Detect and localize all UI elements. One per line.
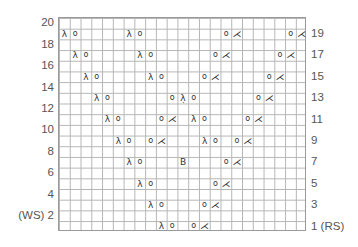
yo-icon: o (156, 200, 167, 211)
yo-icon: o (91, 72, 102, 83)
k2tog-icon: ⋌ (285, 50, 296, 61)
yo-icon: o (188, 93, 199, 104)
yo-icon: o (145, 179, 156, 190)
yo-icon: o (145, 50, 156, 61)
row-label-4: 4 (48, 188, 54, 200)
row-label-12: 12 (41, 102, 54, 114)
k2tog-icon: ⋌ (221, 179, 232, 190)
yo-icon: o (102, 93, 113, 104)
k2tog-icon: ⋌ (167, 114, 178, 125)
row-label-1: 1 (RS) (311, 220, 344, 232)
ssk-icon: λ (145, 72, 156, 83)
yo-icon: o (264, 72, 275, 83)
k2tog-icon: ⋌ (253, 114, 264, 125)
ssk-icon: λ (113, 136, 124, 147)
row-label-6: 6 (48, 166, 54, 178)
row-label-2: (WS) 2 (18, 209, 54, 221)
row-label-9: 9 (311, 134, 317, 146)
ssk-icon: λ (91, 93, 102, 104)
row-label-8: 8 (48, 145, 54, 157)
row-label-7: 7 (311, 155, 317, 167)
k2tog-icon: ⋌ (156, 136, 167, 147)
ssk-icon: λ (124, 157, 135, 168)
yo-icon: o (156, 114, 167, 125)
row-label-13: 13 (311, 91, 324, 103)
yo-icon: o (188, 221, 199, 232)
yo-icon: o (113, 114, 124, 125)
yo-icon: o (167, 221, 178, 232)
ssk-icon: λ (188, 114, 199, 125)
row-label-11: 11 (311, 113, 323, 125)
k2tog-icon: ⋌ (232, 157, 243, 168)
yo-icon: o (145, 136, 156, 147)
k2tog-icon: ⋌ (296, 29, 307, 40)
k2tog-icon: ⋌ (275, 72, 286, 83)
yo-icon: o (242, 114, 253, 125)
ssk-icon: λ (156, 221, 167, 232)
row-label-14: 14 (41, 81, 54, 93)
bobble-icon: B (178, 157, 189, 168)
yo-icon: o (156, 72, 167, 83)
k2tog-icon: ⋌ (264, 93, 275, 104)
ssk-icon: λ (134, 179, 145, 190)
k2tog-icon: ⋌ (221, 50, 232, 61)
row-label-10: 10 (41, 123, 54, 135)
k2tog-icon: ⋌ (232, 29, 243, 40)
yo-icon: o (199, 72, 210, 83)
yo-icon: o (210, 136, 221, 147)
row-label-3: 3 (311, 198, 317, 210)
yo-icon: o (232, 136, 243, 147)
row-label-15: 15 (311, 70, 324, 82)
k2tog-icon: ⋌ (210, 200, 221, 211)
yo-icon: o (285, 29, 296, 40)
yo-icon: o (253, 93, 264, 104)
k2tog-icon: ⋌ (199, 221, 210, 232)
row-label-19: 19 (311, 27, 324, 39)
row-label-17: 17 (311, 48, 324, 60)
k2tog-icon: ⋌ (242, 136, 253, 147)
yo-icon: o (134, 29, 145, 40)
yo-icon: o (81, 50, 92, 61)
yo-icon: o (199, 114, 210, 125)
ssk-icon: λ (59, 29, 70, 40)
ssk-icon: λ (145, 200, 156, 211)
ssk-icon: λ (199, 136, 210, 147)
ssk-icon: λ (134, 50, 145, 61)
sk2p-icon: λ̣ (178, 93, 189, 104)
ssk-icon: λ (124, 29, 135, 40)
yo-icon: o (210, 50, 221, 61)
yo-icon: o (167, 93, 178, 104)
ssk-icon: λ (81, 72, 92, 83)
yo-icon: o (221, 157, 232, 168)
yo-icon: o (70, 29, 81, 40)
ssk-icon: λ (70, 50, 81, 61)
yo-icon: o (221, 29, 232, 40)
ssk-icon: λ (102, 114, 113, 125)
yo-icon: o (275, 50, 286, 61)
knitting-chart-grid: λoλoo⋌o⋌λoλoo⋌o⋌λoλoo⋌o⋌λooλ̣oo⋌λoo⋌λoo⋌… (58, 17, 306, 231)
yo-icon: o (199, 200, 210, 211)
row-label-18: 18 (41, 38, 54, 50)
yo-icon: o (134, 157, 145, 168)
yo-icon: o (210, 179, 221, 190)
yo-icon: o (124, 136, 135, 147)
row-label-16: 16 (41, 59, 54, 71)
k2tog-icon: ⋌ (210, 72, 221, 83)
row-label-20: 20 (41, 16, 54, 28)
row-label-5: 5 (311, 177, 317, 189)
